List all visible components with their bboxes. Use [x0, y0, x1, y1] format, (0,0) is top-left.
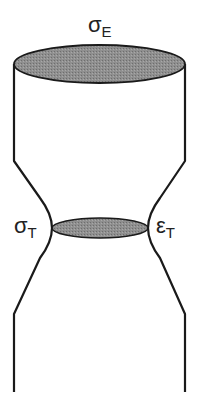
label-epsilon-t: εT — [156, 213, 175, 241]
necking-specimen-diagram: σE σT εT — [0, 0, 201, 405]
neck-cross-section-ellipse — [52, 218, 148, 238]
top-cross-section-ellipse — [14, 45, 185, 83]
label-sigma-e: σE — [88, 12, 112, 40]
label-sigma-t: σT — [14, 213, 37, 241]
